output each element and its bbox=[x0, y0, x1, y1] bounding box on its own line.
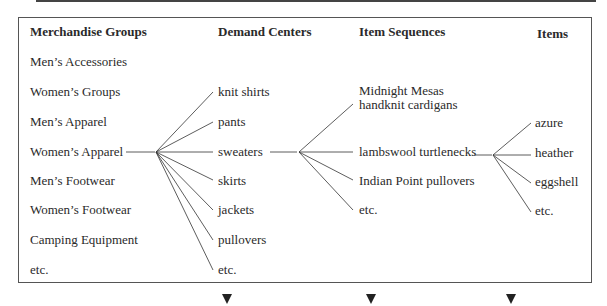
header-demand-centers: Demand Centers bbox=[218, 25, 312, 39]
down-arrow-icon bbox=[366, 294, 376, 304]
group-item: Women’s Groups bbox=[30, 85, 120, 99]
group-item: Men’s Apparel bbox=[30, 115, 107, 129]
sequence-item: Indian Point pullovers bbox=[359, 174, 475, 188]
header-merchandise-groups: Merchandise Groups bbox=[30, 25, 147, 39]
center-item: etc. bbox=[218, 263, 236, 277]
header-item-sequences: Item Sequences bbox=[359, 25, 445, 39]
group-item: Camping Equipment bbox=[30, 233, 138, 247]
center-item: skirts bbox=[218, 174, 246, 188]
header-items: Items bbox=[537, 27, 568, 41]
center-item: jackets bbox=[218, 203, 254, 217]
item-entry: azure bbox=[535, 116, 563, 130]
group-item: etc. bbox=[30, 263, 48, 277]
center-item: pants bbox=[218, 115, 245, 129]
group-item: Women’s Footwear bbox=[30, 203, 131, 217]
item-entry: heather bbox=[535, 146, 573, 160]
group-item: Women’s Apparel bbox=[30, 145, 123, 159]
item-entry: eggshell bbox=[535, 175, 578, 189]
group-item: Men’s Footwear bbox=[30, 174, 115, 188]
sequence-item: lambswool turtlenecks bbox=[359, 145, 476, 159]
center-item: knit shirts bbox=[218, 85, 270, 99]
down-arrow-icon bbox=[222, 294, 232, 304]
sequence-item: Midnight Mesas bbox=[359, 84, 444, 98]
item-entry: etc. bbox=[535, 204, 553, 218]
center-item: sweaters bbox=[218, 145, 263, 159]
center-item: pullovers bbox=[218, 233, 266, 247]
sequence-item: handknit cardigans bbox=[359, 98, 458, 112]
sequence-item: etc. bbox=[359, 203, 377, 217]
group-item: Men’s Accessories bbox=[30, 55, 127, 69]
down-arrow-icon bbox=[506, 294, 516, 304]
